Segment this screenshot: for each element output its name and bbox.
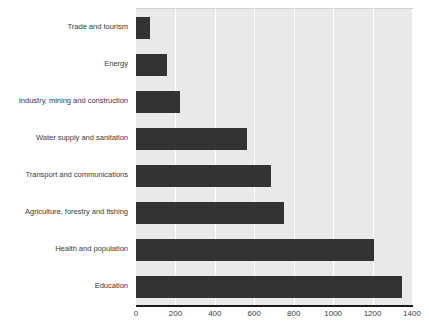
- category-axis: Trade and tourismEnergyIndustry, mining …: [0, 8, 132, 305]
- category-label: Trade and tourism: [0, 23, 128, 31]
- bar: [136, 239, 374, 261]
- category-label: Energy: [0, 60, 128, 68]
- x-tick-label: 400: [208, 310, 221, 318]
- x-tick-label: 0: [134, 310, 138, 318]
- gridline: [412, 9, 413, 306]
- category-label: Agriculture, forestry and fishing: [0, 208, 128, 216]
- x-tick-label: 1400: [403, 310, 421, 318]
- plot-area: [136, 8, 413, 306]
- bar: [136, 17, 150, 39]
- category-label: Transport and communications: [0, 171, 128, 179]
- bar: [136, 54, 167, 76]
- x-tick-label: 800: [287, 310, 300, 318]
- x-tick-label: 600: [248, 310, 261, 318]
- bar: [136, 202, 284, 224]
- category-label: Health and population: [0, 245, 128, 253]
- x-tick-label: 1000: [324, 310, 342, 318]
- x-axis-line: [136, 305, 413, 307]
- category-label: Industry, mining and construction: [0, 97, 128, 105]
- bar: [136, 165, 271, 187]
- bar: [136, 91, 180, 113]
- category-label: Water supply and sanitation: [0, 134, 128, 142]
- bar: [136, 128, 247, 150]
- x-axis-tick-labels: 0200400600800100012001400: [136, 310, 412, 326]
- bar-series: [136, 9, 412, 306]
- bar-chart: Trade and tourismEnergyIndustry, mining …: [0, 0, 429, 329]
- bar: [136, 276, 402, 298]
- x-tick-label: 200: [169, 310, 182, 318]
- category-label: Education: [0, 282, 128, 290]
- x-tick-label: 1200: [364, 310, 382, 318]
